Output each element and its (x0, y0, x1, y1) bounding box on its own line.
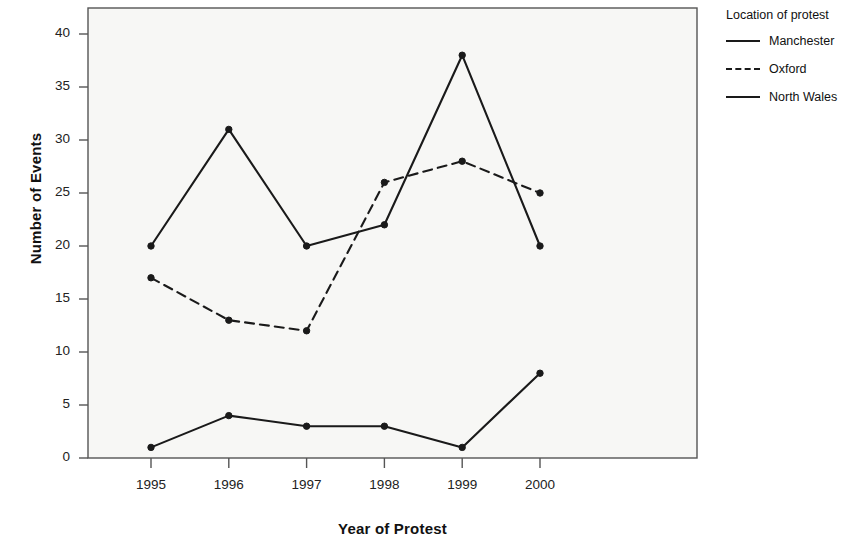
x-axis-ticks (151, 458, 540, 468)
data-point (226, 126, 232, 132)
y-tick-label: 15 (30, 290, 70, 305)
legend-entries: ManchesterOxfordNorth Wales (726, 33, 861, 105)
legend: Location of protest ManchesterOxfordNort… (726, 8, 861, 117)
legend-item-north-wales: North Wales (726, 89, 861, 105)
line-chart: 0510152025303540 19951996199719981999200… (0, 0, 863, 552)
legend-item-manchester: Manchester (726, 33, 861, 49)
data-point (303, 243, 309, 249)
legend-item-label: North Wales (769, 90, 837, 104)
data-point (148, 275, 154, 281)
y-tick-label: 10 (30, 343, 70, 358)
y-tick-label: 40 (30, 25, 70, 40)
data-point (148, 243, 154, 249)
x-axis-title: Year of Protest (88, 520, 697, 537)
legend-item-label: Oxford (769, 62, 807, 76)
y-axis-title: Number of Events (27, 109, 44, 289)
legend-item-label: Manchester (769, 34, 834, 48)
data-point (459, 444, 465, 450)
data-point (303, 423, 309, 429)
x-tick-label: 1997 (277, 477, 337, 492)
data-point (381, 423, 387, 429)
data-point (537, 190, 543, 196)
data-point (459, 52, 465, 58)
y-axis-ticks (79, 34, 88, 458)
data-point (148, 444, 154, 450)
data-point (459, 158, 465, 164)
data-point (537, 243, 543, 249)
data-point (381, 222, 387, 228)
y-tick-label: 5 (30, 396, 70, 411)
data-point (381, 179, 387, 185)
data-point (537, 370, 543, 376)
legend-line-swatch-icon (726, 92, 760, 102)
x-tick-label: 2000 (510, 477, 570, 492)
data-point (226, 412, 232, 418)
legend-item-oxford: Oxford (726, 61, 861, 77)
plot-frame (88, 8, 697, 458)
x-tick-label: 1995 (121, 477, 181, 492)
y-tick-label: 35 (30, 78, 70, 93)
legend-line-swatch-icon (726, 36, 760, 46)
x-tick-label: 1996 (199, 477, 259, 492)
data-point (226, 317, 232, 323)
legend-title: Location of protest (726, 8, 861, 22)
legend-line-swatch-icon (726, 64, 760, 74)
x-tick-label: 1999 (432, 477, 492, 492)
y-tick-label: 0 (30, 449, 70, 464)
data-point (303, 328, 309, 334)
x-tick-label: 1998 (354, 477, 414, 492)
